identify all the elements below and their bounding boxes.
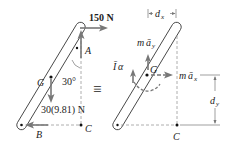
force-150n-label: 150 N <box>89 12 115 23</box>
dx-subscript: x <box>160 13 165 21</box>
point-c-label-right: C <box>173 131 180 142</box>
center-g-label-right: G <box>150 64 157 75</box>
svg-text:α: α <box>118 61 124 72</box>
kinetic-diagram: d x m ā y Ī α G <box>112 8 220 142</box>
svg-text:m: m <box>179 70 186 81</box>
point-a-dot <box>76 47 78 49</box>
svg-text:m: m <box>137 37 144 48</box>
angle-label: 30° <box>62 76 76 87</box>
point-b-dot <box>20 124 23 127</box>
point-b-label: B <box>36 129 42 140</box>
ma-x-label: m ā x <box>179 70 198 83</box>
dy-subscript: y <box>215 100 220 108</box>
point-a-label: A <box>84 45 92 56</box>
svg-text:x: x <box>193 75 198 83</box>
svg-text:ā: ā <box>146 37 151 48</box>
svg-text:y: y <box>151 42 156 50</box>
weight-label: 30(9.81) N <box>41 104 85 116</box>
center-g-dot-right <box>145 73 148 76</box>
moment-arc <box>134 82 160 91</box>
dx-dimension: d x <box>148 8 176 21</box>
i-alpha-label: Ī α <box>112 61 124 72</box>
point-c-label: C <box>85 123 92 134</box>
center-g-label: G <box>37 77 44 88</box>
free-body-diagram: 150 N A G 30° 30(9.81) N B C <box>17 12 115 140</box>
point-c-dot-right <box>176 124 179 127</box>
center-g-dot <box>49 75 52 78</box>
rod-end-dot <box>116 124 118 126</box>
point-c-dot <box>80 124 83 127</box>
svg-text:ā: ā <box>188 70 193 81</box>
force-a-arrow <box>78 30 85 58</box>
weight-arrow <box>48 79 55 103</box>
angle-arc <box>72 60 80 68</box>
i-alpha-arrow <box>130 69 136 83</box>
equivalence-symbol: ≡ <box>93 81 101 97</box>
ma-y-label: m ā y <box>137 37 156 50</box>
dynamics-diagram: 150 N A G 30° 30(9.81) N B C ≡ <box>0 0 237 149</box>
dy-dimension: d y <box>180 75 220 125</box>
